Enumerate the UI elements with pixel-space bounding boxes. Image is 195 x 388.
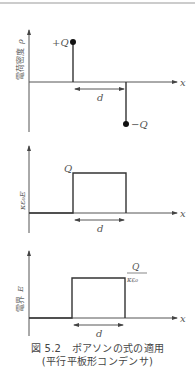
level-label: Q (64, 163, 72, 174)
step-profile (29, 278, 125, 318)
positive-charge-dot (70, 39, 76, 45)
y-axis-label-jp: 電荷密度 (15, 48, 25, 80)
positive-charge-label: +Q (52, 37, 69, 48)
figure-caption-subtitle: (平行平板形コンデンサ) (0, 356, 195, 368)
x-axis-label: x (180, 208, 186, 219)
level-numerator: Q (132, 262, 140, 272)
panel-displacement: x Q d κε₀E (18, 146, 186, 234)
distance-label: d (97, 92, 103, 103)
negative-charge-label: −Q (131, 119, 148, 130)
poisson-diagram: x +Q −Q d 電荷密度 ρ x Q d κε₀E x (0, 0, 195, 388)
y-axis-label-symbol: ρ (16, 39, 25, 45)
step-profile (29, 173, 126, 213)
panel-charge-density: x +Q −Q d 電荷密度 ρ (15, 30, 186, 132)
level-denominator: κε₀ (126, 276, 138, 284)
x-axis-label: x (180, 313, 186, 324)
y-axis-label-jp: 電界 (16, 296, 25, 312)
y-axis-label-symbol: κε₀E (18, 191, 27, 211)
panel-electric-field: x Q κε₀ d 電界 E (16, 251, 186, 339)
y-axis-label-symbol: E (16, 286, 25, 293)
distance-label: d (96, 328, 102, 339)
distance-label: d (97, 223, 103, 234)
negative-charge-dot (123, 121, 129, 127)
figure-caption-title: 図 5.2 ポアソンの式の適用 (0, 343, 195, 355)
x-axis-label: x (180, 77, 186, 88)
